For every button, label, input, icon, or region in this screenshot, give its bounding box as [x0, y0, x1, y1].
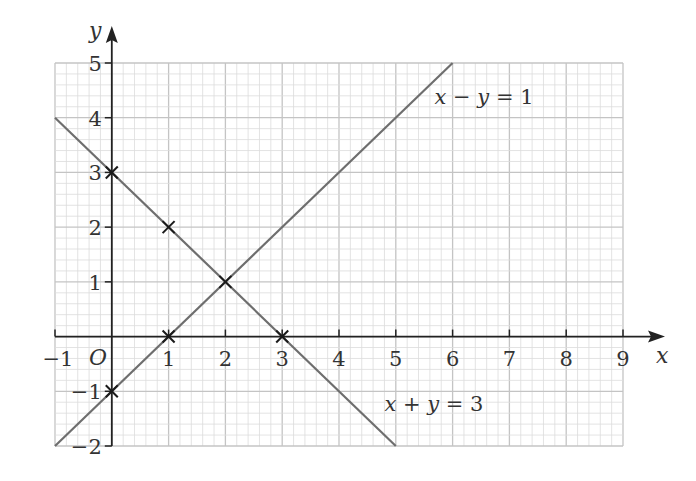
- x-tick-label: 6: [446, 347, 459, 371]
- equation-part: x: [384, 392, 396, 416]
- x-tick-label: 9: [616, 347, 629, 371]
- y-tick-label: 2: [88, 216, 101, 240]
- line-chart: −1123456789−2−112345Oxy x − y = 1x + y =…: [0, 0, 696, 481]
- y-tick-label: 4: [88, 107, 101, 131]
- equation-part: = 3: [439, 392, 483, 416]
- x-tick-label: 4: [332, 347, 345, 371]
- y-tick-label: −2: [71, 435, 102, 459]
- axes: [55, 26, 665, 446]
- y-tick-label: 1: [88, 271, 101, 295]
- axis-labels: −1123456789−2−112345Oxy: [43, 18, 669, 459]
- y-axis-label: y: [88, 18, 102, 43]
- y-tick-label: 3: [88, 161, 101, 185]
- equation-label-1: x − y = 1: [435, 85, 534, 109]
- x-tick-label: 8: [560, 347, 573, 371]
- grid: [55, 63, 623, 446]
- x-tick-label: −1: [43, 347, 74, 371]
- x-tick-label: 2: [219, 347, 232, 371]
- x-tick-label: 1: [162, 347, 175, 371]
- origin-label: O: [89, 345, 107, 370]
- y-tick-label: 5: [88, 52, 101, 76]
- equation-label-2: x + y = 3: [384, 392, 483, 416]
- x-tick-label: 7: [503, 347, 516, 371]
- x-tick-label: 5: [389, 347, 402, 371]
- x-tick-label: 3: [276, 347, 289, 371]
- equation-part: x: [435, 85, 447, 109]
- equation-part: +: [396, 392, 427, 416]
- y-tick-label: −1: [71, 380, 102, 404]
- equation-part: −: [446, 85, 477, 109]
- equation-part: = 1: [489, 85, 533, 109]
- x-axis-label: x: [656, 343, 669, 368]
